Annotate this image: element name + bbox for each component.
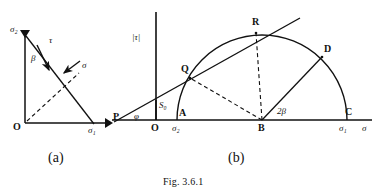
- panel-b-point-b-label: B: [258, 123, 265, 133]
- panel-a-graphics: [20, 30, 113, 128]
- panel-b-two-beta-label: 2β: [277, 107, 286, 116]
- panel-b-radius-bq-dashed: [190, 78, 262, 120]
- panel-a-vertical-axis-arrow: [20, 30, 30, 38]
- panel-b-point-r-dot: [255, 32, 258, 35]
- panel-b-point-r-label: R: [252, 17, 259, 27]
- panel-b-mohr-circle: [177, 35, 347, 120]
- panel-b-point-a-label: A: [179, 108, 186, 118]
- panel-a-caption: (a): [48, 150, 64, 166]
- panel-b-point-q-label: Q: [181, 64, 189, 74]
- panel-b-failure-envelope: [114, 18, 300, 122]
- panel-b-point-q-dot: [189, 77, 192, 80]
- panel-b-radius-br-dashed: [256, 33, 262, 120]
- panel-b-sigma-axis-label: σ: [362, 124, 366, 133]
- panel-b-point-d-label: D: [324, 44, 331, 54]
- panel-b-sigma1-label: σ₁: [339, 124, 347, 133]
- panel-b-graphics: [112, 12, 372, 122]
- panel-b-cohesion-label: S₀: [159, 101, 167, 110]
- figure-3-6-1: σ₂ σ₁ O τ β σ |τ| σ P φ S₀ O σ₂ A Q R D …: [0, 0, 384, 194]
- panel-b-tau-axis-label: |τ|: [132, 33, 140, 42]
- panel-a-sigma-arrow: [64, 61, 80, 73]
- panel-a-failure-plane-line: [26, 36, 94, 124]
- panel-a-origin-label: O: [13, 122, 21, 132]
- panel-a-sigma1-axis-label: σ₁: [88, 126, 96, 135]
- panel-b-radius-bd: [262, 57, 322, 120]
- panel-a-beta-label: β: [31, 54, 35, 63]
- panel-a-sigma2-axis-label: σ₂: [10, 25, 18, 34]
- panel-a-tau-arrow: [37, 45, 49, 70]
- panel-a-sigma-label: σ: [82, 61, 86, 70]
- panel-b-point-d-dot: [321, 56, 324, 59]
- panel-b-caption: (b): [228, 150, 244, 166]
- panel-b-point-p-label: P: [113, 112, 119, 122]
- panel-b-phi-label: φ: [134, 112, 139, 121]
- panel-b-sigma2-label: σ₂: [172, 124, 180, 133]
- panel-a-horizontal-axis-arrow: [105, 118, 113, 128]
- panel-b-origin-label: O: [151, 123, 159, 133]
- panel-a-tau-label: τ: [49, 36, 52, 45]
- panel-b-point-c-label: C: [345, 107, 352, 117]
- figure-caption: Fig. 3.6.1: [163, 176, 203, 187]
- panel-a-normal-direction-dashed: [27, 73, 79, 121]
